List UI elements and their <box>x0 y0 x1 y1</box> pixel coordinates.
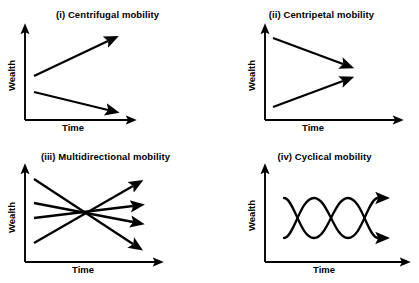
x-axis-label-ii: Time <box>302 122 324 133</box>
trajectory-downward-ii <box>273 38 343 64</box>
y-axis-label-ii: Wealth <box>246 54 257 98</box>
panel-i-plot <box>0 0 209 141</box>
x-axis-label-i: Time <box>62 122 84 133</box>
trajectory-upward-ii <box>273 81 343 107</box>
panel-centripetal-mobility: (ii) Centripetal mobility Time Wealth <box>210 0 419 141</box>
x-axis-label-iii: Time <box>72 264 94 275</box>
trajectory-downward-i <box>34 92 108 110</box>
y-axis-label-iv: Wealth <box>246 194 257 238</box>
trajectory-shallow-ascent-iii <box>34 206 133 218</box>
wave-starting-high-iv <box>284 198 378 238</box>
y-axis-label-i: Wealth <box>6 54 17 98</box>
panel-iii-plot <box>0 142 209 283</box>
panel-iv-plot <box>210 142 419 283</box>
y-axis-label-iii: Wealth <box>6 196 17 240</box>
panel-multidirectional-mobility: (iii) Multidirectional mobility Time Wea… <box>0 142 209 283</box>
panel-cyclical-mobility: (iv) Cyclical mobility Time Wealth <box>210 142 419 283</box>
panel-centrifugal-mobility: (i) Centrifugal mobility Time Wealth <box>0 0 209 141</box>
panel-ii-plot <box>210 0 419 141</box>
mobility-types-figure: (i) Centrifugal mobility Time Wealth (ii… <box>0 0 419 283</box>
x-axis-label-iv: Time <box>313 264 335 275</box>
trajectory-upward-i <box>34 41 108 76</box>
